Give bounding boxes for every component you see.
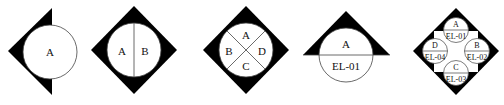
label-a: A [46,46,54,58]
label-b: B [474,41,479,50]
label-a: A [118,45,126,57]
label-b: B [141,45,148,57]
label-d: D [432,41,438,50]
circle-left: D EL-04 [423,39,448,64]
label-c: C [242,60,249,72]
circle-right: B EL-02 [465,39,490,64]
label-a: A [342,38,350,50]
label-b: B [225,45,232,57]
label-el-01: EL-01 [446,32,466,41]
label-el-01: EL-01 [332,60,360,72]
symbol-2: A B [91,6,177,94]
label-el-02: EL-02 [467,53,487,62]
label-el-04: EL-04 [425,53,445,62]
symbol-1: A [8,8,77,95]
circle-top: A EL-01 [444,18,469,43]
label-c: C [453,63,458,72]
symbol-4: A EL-01 [303,11,390,82]
label-el-03: EL-03 [446,75,466,84]
label-a: A [242,29,250,41]
circle-bottom: C EL-03 [444,61,469,86]
label-d: D [258,45,266,57]
symbol-5: A EL-01 B EL-02 C EL-03 D EL-04 [413,8,499,95]
symbol-3: A B C D [203,6,289,94]
label-a: A [453,20,459,29]
section-symbols-diagram: A A B A B C D A EL-01 A EL-01 [0,0,504,105]
